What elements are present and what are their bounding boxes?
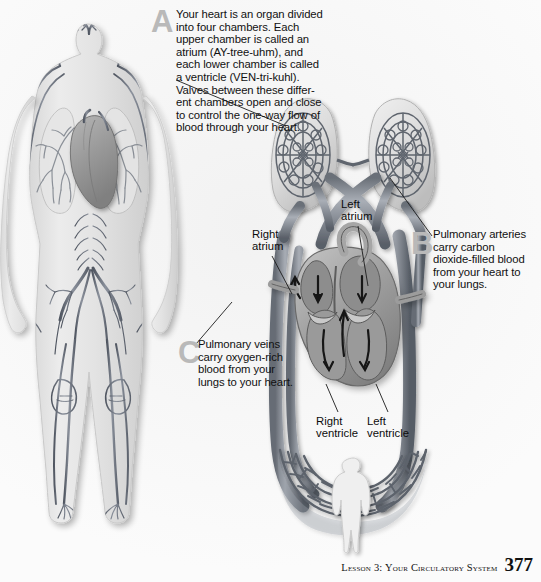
callout-text-c: Pulmonary veins carry oxygen-rich blood … <box>198 338 293 388</box>
callout-marker-c: C <box>178 337 199 368</box>
footer-page-number: 377 <box>505 554 534 576</box>
human-silhouette <box>332 458 370 553</box>
callout-marker-b: B <box>411 228 432 259</box>
callout-text-b: Pulmonary arteries carry carbon dioxide-… <box>433 228 529 291</box>
callout-text-a: Your heart is an organ divided into four… <box>176 8 326 134</box>
label-left-atrium: Left atrium <box>341 198 372 223</box>
page-footer: Lesson 3: Your Circulatory System 377 <box>341 554 533 576</box>
label-right-atrium: Right atrium <box>252 228 283 253</box>
footer-lesson-title: Lesson 3: Your Circulatory System <box>341 562 497 573</box>
callout-marker-a: A <box>151 6 172 37</box>
label-left-ventricle: Left ventricle <box>367 415 409 440</box>
leader-right-ventricle <box>326 384 338 412</box>
left-lung <box>352 99 435 212</box>
textbook-page: A Your heart is an organ divided into fo… <box>0 0 541 582</box>
leader-left-ventricle <box>376 384 388 412</box>
label-right-ventricle: Right ventricle <box>316 415 358 440</box>
